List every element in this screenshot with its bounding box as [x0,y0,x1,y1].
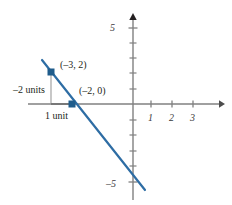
y-tick-label-5: 5 [110,23,115,33]
x-tick-label-1: 1 [148,113,153,123]
run-annotation-label: 1 unit [45,111,68,121]
graph-canvas [0,0,232,205]
data-point-marker [48,69,55,76]
arrow-right-icon [219,100,225,108]
coordinate-plane-figure: 5 –5 1 2 3 (–3, 2) (–2, 0) –2 units 1 un… [0,0,232,205]
x-tick-label-3: 3 [190,113,195,123]
point-label-b: (–2, 0) [79,86,106,96]
plotted-line [42,60,145,190]
y-tick-label-neg5: –5 [106,179,116,189]
point-label-a: (–3, 2) [60,60,87,70]
x-tick-label-2: 2 [169,113,174,123]
data-point-marker [69,101,76,108]
rise-annotation-label: –2 units [13,85,45,95]
arrow-up-icon [129,13,136,20]
